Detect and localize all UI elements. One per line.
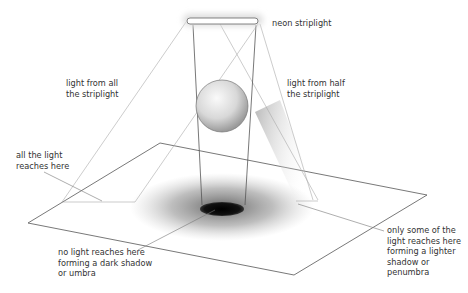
umbra-shadow: [200, 202, 244, 216]
label-light-all: light from all the striplight: [66, 78, 119, 99]
label-penumbra: only some of the light reaches here form…: [387, 225, 461, 278]
label-striplight: neon striplight: [272, 18, 332, 29]
sphere: [196, 80, 248, 132]
label-umbra: no light reaches here forming a dark sha…: [58, 247, 152, 279]
label-all-light-here: all the light reaches here: [16, 150, 69, 171]
neon-striplight: [187, 18, 258, 24]
shadow-diagram: neon striplight light from all the strip…: [0, 0, 468, 293]
label-light-half: light from half the striplight: [287, 78, 345, 99]
